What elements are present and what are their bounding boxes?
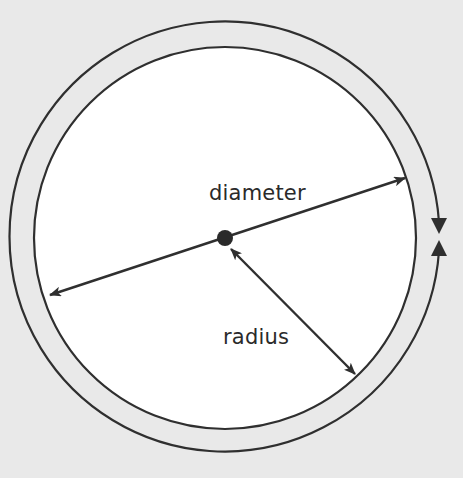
center-point (217, 230, 233, 246)
diagram-canvas (0, 0, 463, 478)
radius-label: radius (223, 325, 289, 349)
circle-diagram: diameter radius (0, 0, 463, 478)
diameter-label: diameter (209, 181, 306, 205)
arrowhead-down-icon (431, 218, 447, 234)
arrowhead-up-icon (431, 240, 447, 256)
